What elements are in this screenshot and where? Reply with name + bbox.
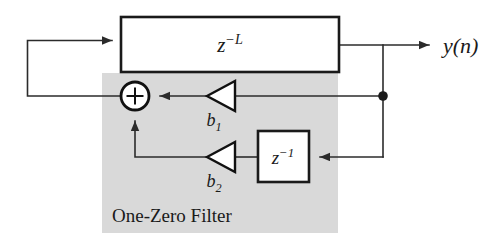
block-diagram-svg: z−L z−1 b1 b2 y(n) One-Zero Filter — [0, 0, 497, 242]
block-diagram-canvas: z−L z−1 b1 b2 y(n) One-Zero Filter — [0, 0, 497, 242]
signal-tap-dot — [378, 91, 388, 101]
one-zero-filter-caption: One-Zero Filter — [112, 205, 232, 226]
output-signal-label: y(n) — [441, 33, 478, 58]
